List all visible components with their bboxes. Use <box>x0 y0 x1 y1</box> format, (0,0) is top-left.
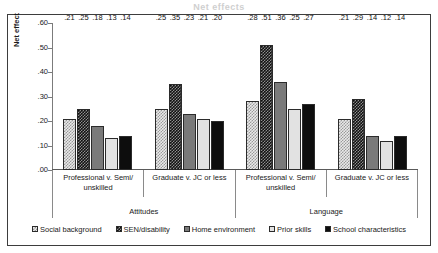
legend-label: Prior skills <box>277 225 311 234</box>
bar-value-label: .51 <box>261 14 271 22</box>
y-axis-tick-label: .00 <box>38 166 48 174</box>
bar[interactable]: .23 <box>183 114 196 170</box>
bar-value-label: .21 <box>339 14 349 22</box>
bar-value-label: .13 <box>106 14 116 22</box>
bar-item: .14 <box>119 23 132 170</box>
category-label: Professional v. Semi/ unskilled <box>235 170 326 197</box>
bar[interactable]: .14 <box>366 136 379 170</box>
bar[interactable]: .29 <box>352 99 365 170</box>
legend-label: School characteristics <box>333 225 406 234</box>
bar-value-label: .29 <box>353 14 363 22</box>
category-axis: Professional v. Semi/ unskilledGraduate … <box>52 170 418 218</box>
bar-value-label: .35 <box>170 14 180 22</box>
category-label: Graduate v. JC or less <box>143 170 234 197</box>
bar-value-label: .25 <box>289 14 299 22</box>
plot-area: .60.50.40.30.20.10.00 .21.25.18.13.14.25… <box>52 23 418 170</box>
legend-swatch-icon <box>184 226 190 232</box>
bar[interactable]: .20 <box>211 121 224 170</box>
bar-groups: .21.25.18.13.14.25.35.23.21.20.28.51.36.… <box>52 23 418 170</box>
legend-item[interactable]: Prior skills <box>269 225 311 234</box>
legend-swatch-icon <box>269 226 275 232</box>
bar[interactable]: .25 <box>288 109 301 170</box>
bar-group: .28.51.36.25.27 <box>235 23 327 170</box>
bar-value-label: .36 <box>275 14 285 22</box>
y-axis-tick-label: .50 <box>38 44 48 52</box>
bar-value-label: .21 <box>64 14 74 22</box>
bar-group: .21.29.14.12.14 <box>327 23 419 170</box>
bar-item: .25 <box>155 23 168 170</box>
bar[interactable]: .14 <box>394 136 407 170</box>
category-label: Graduate v. JC or less <box>326 170 418 197</box>
legend-swatch-icon <box>116 226 122 232</box>
bar-value-label: .18 <box>92 14 102 22</box>
legend-item[interactable]: Social background <box>32 225 102 234</box>
bar[interactable]: .36 <box>274 82 287 170</box>
bar[interactable]: .28 <box>246 101 259 170</box>
bar-item: .20 <box>211 23 224 170</box>
bar-value-label: .20 <box>212 14 222 22</box>
chart-legend: Social backgroundSEN/disabilityHome envi… <box>18 221 420 237</box>
category-label: Professional v. Semi/ unskilled <box>52 170 143 197</box>
bar-value-label: .14 <box>395 14 405 22</box>
bar[interactable]: .21 <box>197 119 210 170</box>
super-group-label: Language <box>235 197 419 218</box>
bar-group: .21.25.18.13.14 <box>52 23 144 170</box>
legend-item[interactable]: Home environment <box>184 225 255 234</box>
y-axis-title: Net effect <box>12 0 21 65</box>
bar[interactable]: .25 <box>155 109 168 170</box>
legend-label: Home environment <box>192 225 255 234</box>
legend-item[interactable]: SEN/disability <box>116 225 170 234</box>
bar[interactable]: .27 <box>302 104 315 170</box>
bar-value-label: .25 <box>156 14 166 22</box>
bar-value-label: .28 <box>247 14 257 22</box>
y-axis-tick-label: .60 <box>38 19 48 27</box>
bar-item: .36 <box>274 23 287 170</box>
bar-item: .21 <box>338 23 351 170</box>
super-group-label: Attitudes <box>52 197 235 218</box>
bar-item: .35 <box>169 23 182 170</box>
legend-label: SEN/disability <box>124 225 170 234</box>
bar[interactable]: .18 <box>91 126 104 170</box>
bar-item: .12 <box>380 23 393 170</box>
y-axis-tick-label: .40 <box>38 68 48 76</box>
bar[interactable]: .14 <box>119 136 132 170</box>
bar[interactable]: .21 <box>63 119 76 170</box>
bar-value-label: .14 <box>367 14 377 22</box>
bar-item: .13 <box>105 23 118 170</box>
category-labels-row: Professional v. Semi/ unskilledGraduate … <box>52 170 418 197</box>
cut-off-chart-title: Net effects <box>8 2 430 13</box>
bar-item: .28 <box>246 23 259 170</box>
bar-value-label: .27 <box>303 14 313 22</box>
bar-group: .25.35.23.21.20 <box>144 23 236 170</box>
bar-value-label: .12 <box>381 14 391 22</box>
bar-item: .14 <box>366 23 379 170</box>
bar-item: .25 <box>288 23 301 170</box>
bar-item: .21 <box>197 23 210 170</box>
bar-item: .23 <box>183 23 196 170</box>
legend-label: Social background <box>40 225 102 234</box>
bar-item: .25 <box>77 23 90 170</box>
bar-item: .51 <box>260 23 273 170</box>
bar[interactable]: .35 <box>169 84 182 170</box>
super-group-labels-row: AttitudesLanguage <box>52 197 418 218</box>
y-axis-tick-label: .20 <box>38 117 48 125</box>
legend-swatch-icon <box>325 226 331 232</box>
bar-item: .18 <box>91 23 104 170</box>
bar[interactable]: .12 <box>380 141 393 170</box>
bar[interactable]: .25 <box>77 109 90 170</box>
bar-value-label: .21 <box>198 14 208 22</box>
legend-item[interactable]: School characteristics <box>325 225 406 234</box>
bar[interactable]: .51 <box>260 45 273 170</box>
y-axis-tick-label: .30 <box>38 93 48 101</box>
bar[interactable]: .21 <box>338 119 351 170</box>
bar-item: .14 <box>394 23 407 170</box>
bar-value-label: .23 <box>184 14 194 22</box>
legend-swatch-icon <box>32 226 38 232</box>
bar-item: .27 <box>302 23 315 170</box>
y-axis-tick-label: .10 <box>38 142 48 150</box>
bar[interactable]: .13 <box>105 138 118 170</box>
bar-item: .21 <box>63 23 76 170</box>
chart-figure: Net effects Net effect .60.50.40.30.20.1… <box>7 14 431 246</box>
bar-value-label: .14 <box>120 14 130 22</box>
bar-item: .29 <box>352 23 365 170</box>
